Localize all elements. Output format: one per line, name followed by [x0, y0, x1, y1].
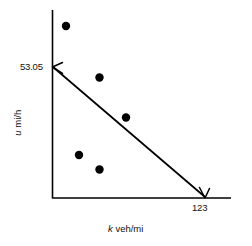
- speed-density-chart: 53.05 123 k veh/mi u mi/h: [0, 0, 252, 246]
- y-axis-units: mi/h: [12, 110, 23, 128]
- data-point: [62, 22, 70, 30]
- chart-canvas: [0, 0, 252, 246]
- data-point: [95, 73, 103, 81]
- y-intercept-value-label: 53.05: [20, 62, 43, 72]
- x-intercept-value-label: 123: [192, 203, 207, 213]
- y-axis-title: u mi/h: [13, 93, 23, 153]
- x-axis-units: veh/mi: [115, 223, 143, 234]
- data-point: [95, 165, 103, 173]
- fitted-line: [53, 67, 205, 197]
- x-axis-title: k veh/mi: [108, 224, 143, 234]
- data-point: [75, 151, 83, 159]
- y-axis-symbol: u: [12, 130, 23, 135]
- data-point: [122, 113, 130, 121]
